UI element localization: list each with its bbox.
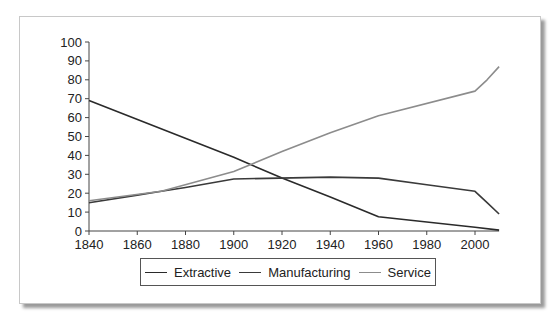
y-tick-label: 70	[68, 91, 82, 106]
legend-swatch-service	[359, 272, 381, 273]
x-tick-label: 1980	[412, 237, 441, 252]
x-tick-label: 1920	[268, 237, 297, 252]
legend-item-manufacturing: Manufacturing	[239, 265, 350, 280]
y-tick-label: 10	[68, 205, 82, 220]
x-tick-label: 1940	[316, 237, 345, 252]
y-tick-label: 60	[68, 110, 82, 125]
y-tick-label: 100	[60, 35, 82, 50]
legend-item-service: Service	[359, 265, 431, 280]
legend-label: Service	[388, 265, 431, 280]
x-tick-label: 2000	[461, 237, 490, 252]
legend-swatch-manufacturing	[239, 272, 261, 273]
legend-label: Extractive	[174, 265, 231, 280]
x-tick-label: 1900	[219, 237, 248, 252]
y-tick-label: 40	[68, 148, 82, 163]
legend: Extractive Manufacturing Service	[140, 258, 436, 286]
x-tick-label: 1880	[171, 237, 200, 252]
series-line-extractive	[89, 101, 499, 231]
legend-label: Manufacturing	[268, 265, 350, 280]
y-tick-label: 50	[68, 129, 82, 144]
legend-item-extractive: Extractive	[145, 265, 231, 280]
x-tick-label: 1860	[123, 237, 152, 252]
legend-swatch-extractive	[145, 272, 167, 273]
axes: 0102030405060708090100184018601880190019…	[60, 35, 499, 253]
y-tick-label: 80	[68, 72, 82, 87]
y-tick-label: 30	[68, 167, 82, 182]
x-tick-label: 1960	[364, 237, 393, 252]
y-tick-label: 90	[68, 53, 82, 68]
x-tick-label: 1840	[75, 237, 104, 252]
series-line-service	[89, 67, 499, 201]
data-lines	[89, 67, 499, 231]
y-tick-label: 20	[68, 186, 82, 201]
